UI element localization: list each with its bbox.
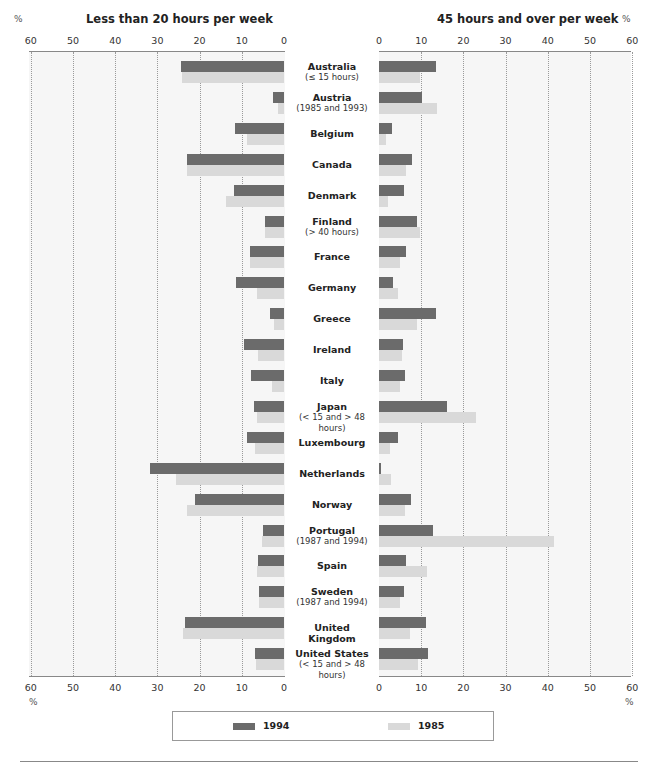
country-name: Italy <box>290 375 374 386</box>
left-bar-1994 <box>251 370 284 381</box>
left-bar-1985 <box>274 319 284 330</box>
left-bar-1994 <box>244 339 284 350</box>
right-bar-1994 <box>379 216 417 227</box>
left-gridline <box>200 52 201 676</box>
country-note: (< 15 and > 48 hours) <box>290 659 374 681</box>
left-bar-1985 <box>278 103 284 114</box>
left-bottom-axis <box>29 676 285 677</box>
country-note: (< 15 and > 48 hours) <box>290 412 374 434</box>
right-bottom-tick-label: 40 <box>536 682 560 693</box>
left-bottom-tick-label: 50 <box>61 682 85 693</box>
left-panel-title: Less than 20 hours per week <box>86 12 273 26</box>
country-label: Japan(< 15 and > 48 hours) <box>290 401 374 434</box>
country-name: Luxembourg <box>290 437 374 448</box>
legend: 1994 1985 <box>172 711 494 741</box>
left-bar-1994 <box>259 586 284 597</box>
country-label: Austria(1985 and 1993) <box>290 92 374 114</box>
left-bar-1994 <box>250 246 284 257</box>
right-top-tick-label: 0 <box>367 35 391 46</box>
left-top-tick-label: 0 <box>272 35 296 46</box>
country-label: Sweden(1987 and 1994) <box>290 586 374 608</box>
country-label: Australia(≤ 15 hours) <box>290 61 374 83</box>
right-bar-1994 <box>379 555 406 566</box>
right-gridline <box>590 52 591 676</box>
right-bar-1985 <box>379 443 390 454</box>
country-name: Portugal <box>290 525 374 536</box>
legend-swatch-1985 <box>388 723 410 730</box>
right-bottom-tick-label: 10 <box>409 682 433 693</box>
country-note: (1987 and 1994) <box>290 597 374 608</box>
country-name: Spain <box>290 560 374 571</box>
country-label: Luxembourg <box>290 437 374 448</box>
left-bar-1985 <box>272 381 284 392</box>
right-bar-1985 <box>379 134 386 145</box>
right-bar-1994 <box>379 308 436 319</box>
right-bar-1985 <box>379 505 405 516</box>
right-bar-1994 <box>379 617 426 628</box>
left-gridline <box>73 52 74 676</box>
left-bar-1994 <box>273 92 284 103</box>
country-name: Norway <box>290 499 374 510</box>
right-bar-1994 <box>379 123 392 134</box>
country-name: Finland <box>290 216 374 227</box>
left-bar-1985 <box>182 72 284 83</box>
left-bar-1994 <box>263 525 284 536</box>
left-top-tick-label: 50 <box>61 35 85 46</box>
right-bar-1985 <box>379 412 476 423</box>
left-bar-1994 <box>187 154 284 165</box>
country-label: United Kingdom <box>290 622 374 644</box>
right-bottom-tick-label: 30 <box>494 682 518 693</box>
right-bottom-tick-label: 60 <box>620 682 644 693</box>
right-top-tick-label: 60 <box>620 35 644 46</box>
right-bar-1994 <box>379 154 412 165</box>
right-bar-1985 <box>379 381 400 392</box>
left-bar-1985 <box>258 350 284 361</box>
right-bar-1994 <box>379 525 433 536</box>
right-bar-1994 <box>379 339 403 350</box>
right-bar-1994 <box>379 246 406 257</box>
right-bar-1985 <box>379 72 420 83</box>
right-bar-1985 <box>379 566 427 577</box>
country-name: Ireland <box>290 344 374 355</box>
left-bar-1985 <box>262 536 284 547</box>
right-bar-1994 <box>379 370 405 381</box>
country-name: Greece <box>290 313 374 324</box>
country-name: Canada <box>290 159 374 170</box>
left-bottom-tick-label: 10 <box>230 682 254 693</box>
left-bar-1985 <box>250 257 284 268</box>
left-top-tick-label: 30 <box>145 35 169 46</box>
country-name: Sweden <box>290 586 374 597</box>
left-bar-1985 <box>265 227 284 238</box>
left-bar-1994 <box>185 617 284 628</box>
left-bar-1985 <box>187 165 284 176</box>
left-top-axis <box>29 51 285 52</box>
country-label: Canada <box>290 159 374 170</box>
left-gridline <box>242 52 243 676</box>
left-bar-1985 <box>257 288 284 299</box>
right-top-tick-label: 30 <box>494 35 518 46</box>
left-bar-1994 <box>254 401 284 412</box>
right-bar-1994 <box>379 586 404 597</box>
country-name: United Kingdom <box>290 622 374 644</box>
right-bar-1994 <box>379 277 393 288</box>
left-bar-1994 <box>255 648 284 659</box>
country-note: (≤ 15 hours) <box>290 72 374 83</box>
right-top-axis <box>379 51 631 52</box>
country-label: Portugal(1987 and 1994) <box>290 525 374 547</box>
right-top-percent-label: % <box>622 14 631 24</box>
country-label: Denmark <box>290 190 374 201</box>
right-bar-1985 <box>379 474 391 485</box>
left-bar-1994 <box>265 216 284 227</box>
left-bar-1985 <box>187 505 284 516</box>
left-gridline <box>31 52 32 676</box>
right-bar-1985 <box>379 536 554 547</box>
right-bar-1985 <box>379 257 400 268</box>
left-bar-1994 <box>234 185 284 196</box>
left-top-percent-label: % <box>14 14 23 24</box>
left-bottom-tick-label: 40 <box>103 682 127 693</box>
left-bar-1985 <box>255 443 284 454</box>
left-gridline <box>157 52 158 676</box>
country-name: Australia <box>290 61 374 72</box>
left-bar-1985 <box>247 134 284 145</box>
left-bottom-tick-label: 20 <box>188 682 212 693</box>
